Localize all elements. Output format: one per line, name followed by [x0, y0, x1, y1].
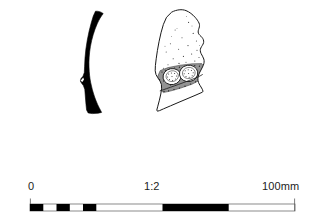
scale-bar-group: 0 1:2 100mm [0, 176, 325, 224]
artefact-drawings [0, 0, 325, 180]
scale-segment-0-10 [30, 204, 43, 211]
scale-segment-40-50 [83, 204, 96, 211]
scale-label-end: 100mm [262, 181, 299, 192]
scale-segment-100-200 [163, 204, 229, 211]
scale-bar-graphic [0, 196, 325, 220]
scale-label-start: 0 [28, 181, 34, 192]
figure-left-sherd-profile [80, 11, 103, 113]
sherd-body-fill [155, 10, 204, 111]
figure-right-sherd-exterior [155, 10, 204, 111]
figure-layer [0, 0, 325, 180]
illustration-plate: 0 1:2 100mm [0, 0, 325, 224]
scale-segment-20-30 [57, 204, 70, 211]
scale-label-ratio: 1:2 [144, 181, 160, 192]
sherd-profile-body [80, 11, 103, 113]
